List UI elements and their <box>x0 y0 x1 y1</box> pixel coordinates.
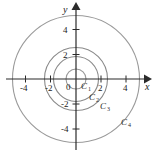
y-tick-label-pos2: 2 <box>63 50 68 60</box>
x-axis <box>6 75 152 84</box>
y-tick-label-neg2: -2 <box>61 99 69 109</box>
x-tick-label-neg2: -2 <box>45 83 53 93</box>
y-axis-arrowhead <box>72 2 81 10</box>
circle-label-c3-text: C <box>100 101 107 111</box>
x-tick-label-pos4: 4 <box>123 83 128 93</box>
circle-label-c4-subscript: 4 <box>128 122 131 128</box>
circle-label-c4-text: C <box>121 117 128 127</box>
figure-container: x y -4 -2 2 4 4 2 -2 -4 0 C 1 C 2 C 3 C … <box>0 0 157 154</box>
circle-label-c1: C 1 <box>81 81 91 92</box>
circle-label-c2: C 2 <box>89 92 99 103</box>
x-tick-label-neg4: -4 <box>20 83 28 93</box>
circle-label-c2-text: C <box>89 92 96 102</box>
coordinate-plane-diagram: x y -4 -2 2 4 4 2 -2 -4 0 C 1 C 2 C 3 C … <box>0 0 157 154</box>
circle-label-c4: C 4 <box>121 117 131 128</box>
y-axis-label: y <box>62 4 68 15</box>
origin-label: 0 <box>66 82 71 92</box>
circle-label-c3: C 3 <box>100 101 110 112</box>
circle-label-c1-text: C <box>81 81 88 91</box>
circle-label-c2-subscript: 2 <box>96 97 99 103</box>
y-tick-label-neg4: -4 <box>61 124 69 134</box>
circle-label-c3-subscript: 3 <box>107 106 110 112</box>
x-tick-label-pos2: 2 <box>98 83 103 93</box>
y-axis <box>72 2 81 150</box>
y-tick-label-pos4: 4 <box>63 25 68 35</box>
x-axis-label: x <box>144 81 150 92</box>
